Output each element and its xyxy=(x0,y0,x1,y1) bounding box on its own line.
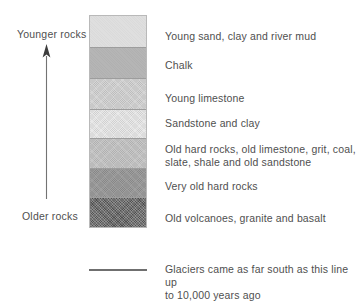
glacier-note-text: Glaciers came as far south as this line … xyxy=(165,263,359,302)
rock-column xyxy=(89,15,147,228)
layer-label-old-hard-rocks: Old hard rocks, old limestone, grit, coa… xyxy=(165,143,356,169)
layer-label-young-limestone: Young limestone xyxy=(165,92,245,105)
rock-band-sandstone-and-clay xyxy=(90,110,146,139)
layer-label-old-volcanoes-granite-basalt: Old volcanoes, granite and basalt xyxy=(165,212,326,225)
layer-label-sandstone-and-clay: Sandstone and clay xyxy=(165,117,260,130)
rock-band-old-hard-rocks xyxy=(90,139,146,169)
rock-band-old-volcanoes-granite-basalt xyxy=(90,198,146,228)
glacier-line-marker xyxy=(89,269,147,271)
rock-band-chalk xyxy=(90,48,146,79)
older-rocks-label: Older rocks xyxy=(22,210,78,222)
upward-arrow-icon xyxy=(38,42,56,200)
rock-strata-diagram: Younger rocks Older rocks Young sand, cl… xyxy=(0,0,359,303)
layer-label-very-old-hard-rocks: Very old hard rocks xyxy=(165,180,258,193)
rock-band-young-limestone xyxy=(90,79,146,110)
rock-band-very-old-hard-rocks xyxy=(90,169,146,198)
younger-rocks-label: Younger rocks xyxy=(17,28,86,40)
layer-label-young-sand-clay-river-mud: Young sand, clay and river mud xyxy=(165,30,316,43)
layer-label-chalk: Chalk xyxy=(165,59,193,72)
rock-band-young-sand-clay-river-mud xyxy=(90,16,146,48)
